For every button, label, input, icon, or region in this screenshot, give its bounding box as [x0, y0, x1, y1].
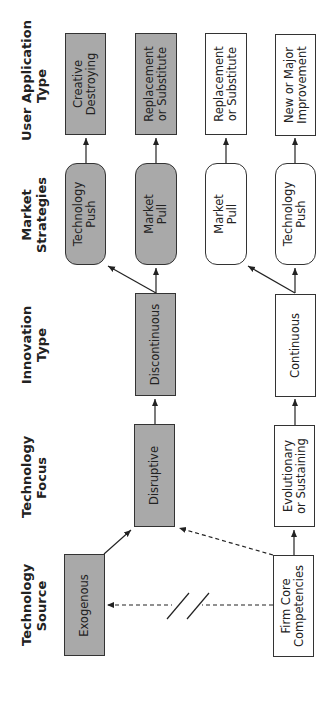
header-user-application-type: User Application Type	[19, 31, 51, 141]
node-label: Disruptive	[148, 446, 161, 505]
header-text: User Application Type	[19, 20, 49, 141]
node-disruptive: Disruptive	[134, 424, 175, 527]
node-label: Market Pull	[143, 194, 169, 234]
header-text: Market Strategies	[19, 177, 49, 253]
header-technology-source: Technology Source	[19, 566, 51, 646]
header-market-strategies: Market Strategies	[19, 175, 51, 255]
node-label: Continuous	[289, 313, 302, 378]
arrow-exogenous-to-disruptive	[104, 530, 131, 554]
node-replacement-or-substitute-highlighted: Replacement or Substitute	[135, 33, 177, 135]
arrow-discontinuous-to-techpush	[108, 266, 156, 293]
node-discontinuous: Discontinuous	[135, 293, 176, 396]
arrow-continuous-to-marketpull	[248, 266, 295, 293]
header-innovation-type: Innovation Type	[19, 305, 51, 385]
node-replacement-or-substitute: Replacement or Substitute	[205, 33, 247, 135]
node-label: Firm Core Competencies	[281, 565, 307, 647]
arrow-firmcore-to-disruptive-dashed	[179, 528, 273, 555]
node-label: Exogenous	[78, 574, 91, 637]
node-firm-core-competencies: Firm Core Competencies	[273, 555, 314, 657]
header-text: Technology Focus	[19, 436, 49, 518]
node-technology-push: Technology Push	[275, 163, 316, 265]
node-label: New or Major Improvement	[283, 46, 309, 123]
node-market-pull-highlighted: Market Pull	[135, 163, 177, 265]
node-label: Evolutionary or Sustaining	[282, 438, 308, 514]
node-creative-destroying: Creative Destroying	[65, 33, 106, 135]
node-label: Replacement or Substitute	[143, 46, 169, 122]
node-evolutionary-or-sustaining: Evolutionary or Sustaining	[274, 425, 315, 527]
node-label: Market Pull	[213, 194, 239, 234]
node-market-pull: Market Pull	[205, 163, 247, 265]
node-technology-push-highlighted: Technology Push	[65, 163, 106, 265]
node-new-or-major-improvement: New or Major Improvement	[275, 34, 316, 136]
node-label: Technology Push	[283, 182, 309, 246]
header-text: Innovation Type	[19, 306, 49, 384]
node-continuous: Continuous	[275, 294, 316, 397]
header-text: Technology Source	[19, 564, 49, 646]
header-technology-focus: Technology Focus	[19, 438, 51, 518]
node-label: Replacement or Substitute	[213, 46, 239, 122]
node-label: Discontinuous	[149, 304, 162, 385]
node-label: Technology Push	[73, 182, 99, 246]
node-label: Creative Destroying	[73, 53, 99, 116]
node-exogenous: Exogenous	[64, 554, 105, 656]
